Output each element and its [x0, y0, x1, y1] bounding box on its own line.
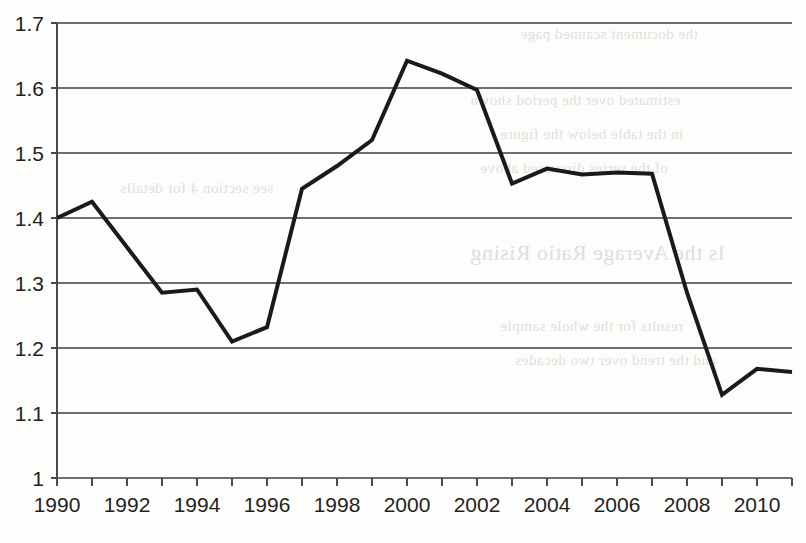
- data-series-group: [57, 61, 792, 395]
- x-tick-label: 2010: [734, 493, 781, 516]
- x-tick-label: 2004: [524, 493, 571, 516]
- x-tick-label: 1994: [174, 493, 221, 516]
- y-axis-line-group: [51, 23, 57, 478]
- y-tick-labels-group: 1.71.61.51.41.31.21.11: [15, 12, 45, 490]
- gridlines-group: [57, 23, 792, 478]
- x-tick-label: 2002: [454, 493, 501, 516]
- line-chart-figure: the document scanned page estimated over…: [0, 0, 806, 543]
- x-tick-label: 1992: [104, 493, 151, 516]
- y-tick-label: 1.3: [15, 272, 44, 295]
- x-tick-labels-group: 1990199219941996199820002002200420062008…: [34, 493, 781, 516]
- x-axis-ticks-group: [57, 478, 792, 486]
- y-tick-label: 1.5: [15, 142, 44, 165]
- x-tick-label: 1990: [34, 493, 81, 516]
- x-tick-label: 1996: [244, 493, 291, 516]
- y-tick-label: 1.6: [15, 77, 44, 100]
- x-tick-label: 1998: [314, 493, 361, 516]
- data-series-line: [57, 61, 792, 395]
- x-tick-label: 2000: [384, 493, 431, 516]
- y-tick-label: 1.7: [15, 12, 44, 35]
- x-tick-label: 2006: [594, 493, 641, 516]
- y-tick-label: 1: [32, 467, 44, 490]
- y-tick-label: 1.4: [15, 207, 45, 230]
- chart-canvas: 1.71.61.51.41.31.21.11 19901992199419961…: [0, 0, 806, 543]
- y-tick-label: 1.2: [15, 337, 44, 360]
- y-tick-label: 1.1: [15, 402, 44, 425]
- x-tick-label: 2008: [664, 493, 711, 516]
